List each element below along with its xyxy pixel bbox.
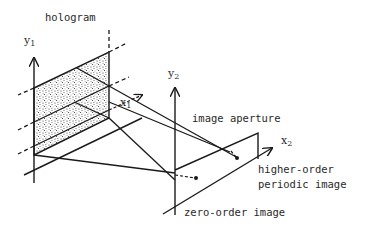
image-aperture-label: image aperture [192, 113, 281, 124]
y1-label-sub: 1 [30, 39, 35, 48]
x2-label: x2 [281, 135, 292, 148]
hologram-label: hologram [45, 12, 96, 23]
zero-order-label: zero-order image [184, 207, 285, 218]
higher-order-label-line1: higher-order [258, 164, 334, 175]
hologram-imaging-diagram [0, 0, 371, 229]
x2-axis [163, 148, 272, 214]
y2-label-sub: 2 [174, 72, 179, 81]
zero-order-image-point [175, 175, 198, 180]
x1-label-sub: 1 [126, 101, 131, 110]
higher-order-label-line2: periodic image [258, 179, 347, 190]
y2-label: y2 [168, 68, 179, 81]
x2-label-sub: 2 [287, 139, 292, 148]
x1-label: x1 [120, 97, 131, 110]
y1-label: y1 [24, 35, 35, 48]
